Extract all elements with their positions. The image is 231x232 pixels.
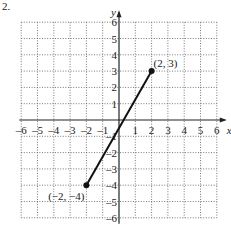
y-tick-label: 4 [112,49,118,61]
x-tick-label: –4 [47,124,60,136]
x-tick-label: 6 [214,124,220,136]
x-tick-label: –2 [80,124,92,136]
y-tick-label: –3 [105,163,118,175]
x-tick-label: –6 [15,124,28,136]
problem-number: 2. [2,0,11,12]
y-tick-label: –5 [105,196,118,208]
x-tick-label: 2 [149,124,155,136]
y-tick-label: 3 [112,65,118,77]
x-axis-label: x [226,124,231,136]
x-tick-label: 4 [181,124,187,136]
point-label-end: (2, 3) [154,57,178,70]
x-tick-label: 5 [198,124,204,136]
x-axis-arrow-icon [220,118,227,123]
x-tick-label: –5 [31,124,44,136]
x-tick-label: 3 [165,124,171,136]
y-axis-arrow-icon [117,10,122,17]
x-tick-label: 1 [133,124,139,136]
y-tick-label: 6 [112,16,118,28]
endpoint-dot [83,182,89,188]
y-tick-label: 1 [112,98,118,110]
y-tick-label: –6 [105,212,118,224]
point-label-start: (−2, −4) [48,190,85,203]
x-tick-label: –3 [64,124,77,136]
y-tick-label: –4 [105,179,118,191]
y-tick-label: 2 [112,81,118,93]
coordinate-plane: 2.xy–6–5–4–3–2–1123456654321–1–2–3–4–5–6… [0,0,231,232]
y-tick-label: 5 [112,33,118,45]
